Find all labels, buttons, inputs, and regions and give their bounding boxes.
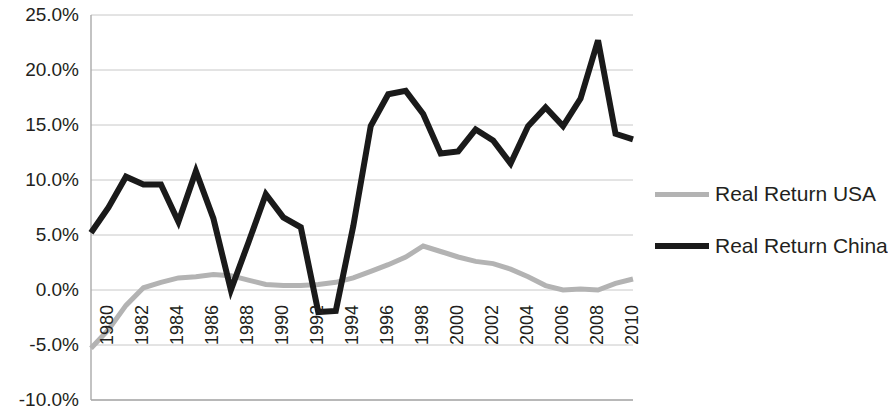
x-axis-tick-label: 2010 [623, 305, 641, 345]
x-axis-tick-label: 1984 [168, 305, 186, 345]
x-axis-tick-label: 1992 [308, 305, 326, 345]
x-axis-tick-label: 1996 [378, 305, 396, 345]
legend-item-real-return-usa: Real Return USA [655, 168, 883, 220]
x-axis-tick-label: 2004 [518, 305, 536, 345]
x-axis-tick-label: 2002 [483, 305, 501, 345]
china-line-swatch-icon [655, 243, 709, 249]
series-lines [91, 40, 633, 348]
series-line-real-return-china [91, 40, 633, 312]
x-axis-tick-label: 2008 [588, 305, 606, 345]
x-axis-tick-label: 1994 [343, 305, 361, 345]
chart-legend: Real Return USA Real Return China [655, 168, 883, 272]
x-axis-tick-label: 1988 [238, 305, 256, 345]
x-axis-tick-label: 1990 [273, 305, 291, 345]
x-axis-tick-label: 1982 [133, 305, 151, 345]
legend-label-china: Real Return China [715, 234, 888, 258]
x-axis-tick-label: 1980 [98, 305, 116, 345]
x-axis-tick-label: 1986 [203, 305, 221, 345]
legend-label-usa: Real Return USA [715, 182, 876, 206]
x-axis-tick-label: 1998 [413, 305, 431, 345]
legend-item-real-return-china: Real Return China [655, 220, 883, 272]
x-axis-tick-label: 2000 [448, 305, 466, 345]
x-axis-tick-label: 2006 [553, 305, 571, 345]
usa-line-swatch-icon [655, 192, 709, 197]
